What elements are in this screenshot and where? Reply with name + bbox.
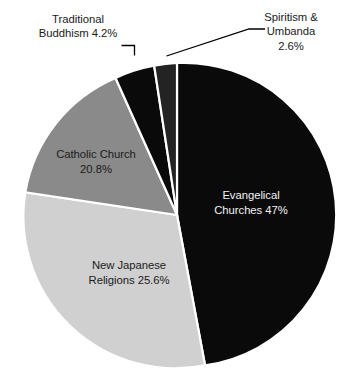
pie-label-traditional-buddhism: Traditional Buddhism 4.2% [14, 12, 142, 41]
pie-chart: Traditional Buddhism 4.2% Spiritism & Um… [0, 0, 344, 384]
pie-label-new-japanese-religions: New Japanese Religions 25.6% [55, 258, 203, 287]
pie-label-evangelical-churches: Evangelical Churches 47% [189, 188, 313, 217]
pie-label-catholic-church: Catholic Church 20.8% [31, 147, 161, 176]
leader-line-traditional-buddhism [122, 46, 135, 56]
pie-label-spiritism-umbanda: Spiritism & Umbanda 2.6% [243, 10, 339, 53]
